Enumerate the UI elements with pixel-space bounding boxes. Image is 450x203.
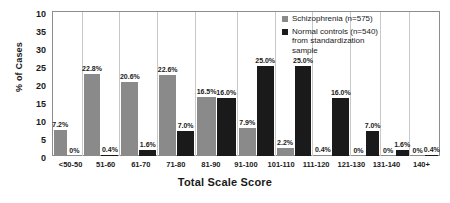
bar-chart: % of Cases 1035302520151050 7.2%0%22.8%0… — [0, 0, 450, 203]
bar-column: 22.8% — [84, 12, 101, 156]
bar-value-label: 16.0% — [331, 89, 351, 97]
bar — [177, 131, 194, 156]
bar-column: 16.5% — [197, 12, 216, 156]
x-tick-label: 121-130 — [334, 160, 369, 169]
x-axis-title: Total Scale Score — [0, 176, 450, 188]
y-tick-label: 5 — [41, 136, 46, 145]
bar — [314, 155, 331, 156]
x-tick-label: 61-70 — [123, 160, 158, 169]
x-tick-label: 131-140 — [369, 160, 404, 169]
y-tick-label: 0 — [41, 154, 46, 163]
bar-group: 22.8%0.4% — [83, 12, 121, 156]
legend-label-line2: from standardization — [292, 36, 364, 45]
bar — [239, 128, 256, 156]
bar-value-label: 0% — [69, 147, 79, 155]
legend-label-normal-controls: Normal controls (n=540) from standardiza… — [292, 27, 378, 56]
bar-value-label: 0% — [413, 147, 423, 155]
legend-item-schizophrenia: Schizophrenia (n=575) — [282, 14, 432, 24]
bar-value-label: 20.6% — [120, 73, 140, 81]
bar-group: 16.5%16.0% — [196, 12, 238, 156]
bar-group: 7.9%25.0% — [238, 12, 276, 156]
bar-value-label: 7.2% — [52, 121, 68, 129]
bar — [54, 130, 67, 156]
bar-value-label: 1.6% — [394, 141, 410, 149]
x-tick-label: 51-60 — [88, 160, 123, 169]
x-tick-label: 140+ — [404, 160, 439, 169]
bar-column: 25.0% — [257, 12, 274, 156]
bar-value-label: 0% — [383, 147, 393, 155]
y-axis-tick-labels: 1035302520151050 — [22, 9, 46, 161]
bar-value-label: 7.9% — [239, 119, 255, 127]
bar — [197, 97, 216, 156]
legend-label-line1: Normal controls (n=540) — [292, 27, 378, 36]
x-tick-label: 71-80 — [158, 160, 193, 169]
bar — [332, 98, 349, 156]
bar-value-label: 25.0% — [293, 57, 313, 65]
bar-column: 22.6% — [159, 12, 176, 156]
black-square-swatch-icon — [282, 29, 288, 35]
bar-value-label: 1.6% — [140, 141, 156, 149]
x-tick-label: <50-50 — [53, 160, 88, 169]
legend-label-schizophrenia: Schizophrenia (n=575) — [292, 14, 373, 24]
bar — [217, 98, 236, 156]
bar — [121, 82, 138, 156]
bar — [101, 155, 118, 156]
bar — [366, 131, 379, 156]
x-tick-label: 111-120 — [299, 160, 334, 169]
bar-value-label: 7.0% — [365, 122, 381, 130]
bar-value-label: 0.4% — [424, 146, 440, 154]
legend: Schizophrenia (n=575) Normal controls (n… — [282, 14, 432, 58]
bar-value-label: 22.6% — [158, 66, 178, 74]
bar-group: 7.2%0% — [53, 12, 83, 156]
bar-column: 7.9% — [239, 12, 256, 156]
bar — [277, 148, 294, 156]
bar-column: 1.6% — [139, 12, 156, 156]
bar — [139, 150, 156, 156]
x-tick-label: 101-110 — [264, 160, 299, 169]
y-tick-label: 25 — [36, 64, 46, 73]
y-tick-label: 20 — [36, 82, 46, 91]
bar-value-label: 2.2% — [277, 139, 293, 147]
bar-column: 7.0% — [177, 12, 194, 156]
y-tick-label: 15 — [36, 100, 46, 109]
gray-square-swatch-icon — [282, 16, 288, 22]
x-axis-tick-labels: <50-5051-6061-7071-8081-9091-100101-1101… — [53, 160, 439, 169]
bar-value-label: 7.0% — [178, 122, 194, 130]
bar-column: 16.0% — [217, 12, 236, 156]
bar-column: 7.2% — [54, 12, 67, 156]
bar — [425, 155, 438, 156]
y-tick-label: 10 — [36, 10, 46, 19]
x-tick-label: 91-100 — [228, 160, 263, 169]
bar-value-label: 0.4% — [102, 146, 118, 154]
legend-label-line3: sample — [292, 46, 318, 55]
bar-value-label: 22.8% — [82, 65, 102, 73]
bar-value-label: 16.5% — [197, 88, 217, 96]
bar — [84, 74, 101, 156]
bar — [295, 66, 312, 156]
bar-value-label: 16.0% — [216, 89, 236, 97]
bar — [257, 66, 274, 156]
bar-value-label: 0% — [353, 147, 363, 155]
y-tick-label: 30 — [36, 46, 46, 55]
bar-group: 20.6%1.6% — [120, 12, 158, 156]
bar — [396, 150, 409, 156]
legend-item-normal-controls: Normal controls (n=540) from standardiza… — [282, 27, 432, 56]
bar-group: 22.6%7.0% — [158, 12, 196, 156]
bar-value-label: 25.0% — [255, 57, 275, 65]
bar-value-label: 0.4% — [315, 146, 331, 154]
bar-column: 0.4% — [101, 12, 118, 156]
y-tick-label: 35 — [36, 28, 46, 37]
y-tick-label: 10 — [36, 118, 46, 127]
bar-column: 20.6% — [121, 12, 138, 156]
bar — [159, 75, 176, 156]
bar-column: 0% — [68, 12, 81, 156]
x-tick-label: 81-90 — [193, 160, 228, 169]
